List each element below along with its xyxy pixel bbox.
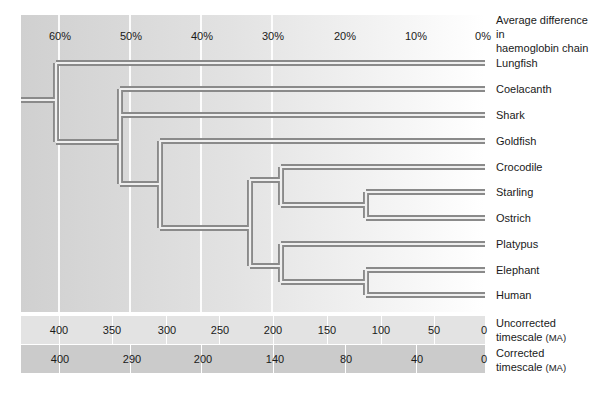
corrected-label-line2: timescale (MA) (496, 360, 566, 375)
leaf-crocodile: Crocodile (496, 161, 542, 173)
uncorrected-tick-250: 250 (211, 324, 229, 336)
corrected-tick-400: 400 (51, 353, 69, 365)
uncorrected-label-text: timescale (496, 331, 542, 343)
leaf-elephant: Elephant (496, 264, 539, 276)
leaf-human: Human (496, 289, 531, 301)
corrected-tick-290: 290 (123, 353, 141, 365)
uncorrected-tick-400: 400 (50, 324, 68, 336)
leaf-coelacanth: Coelacanth (496, 83, 552, 95)
leaf-starling: Starling (496, 186, 533, 198)
corrected-tick-40: 40 (411, 353, 423, 365)
uncorrected-tick-150: 150 (318, 324, 336, 336)
leaf-shark: Shark (496, 109, 525, 121)
uncorrected-tick-0: 0 (481, 324, 487, 336)
corrected-tick-80: 80 (340, 353, 352, 365)
leaf-ostrich: Ostrich (496, 212, 531, 224)
corrected-timescale-label: Corrected timescale (MA) (496, 346, 566, 375)
corrected-tick-200: 200 (194, 353, 212, 365)
leaf-platypus: Platypus (496, 238, 538, 250)
uncorrected-tick-100: 100 (372, 324, 390, 336)
corrected-unit: (MA) (546, 362, 567, 373)
corrected-label-text: timescale (496, 361, 542, 373)
uncorrected-timescale-label: Uncorrected timescale (MA) (496, 316, 566, 345)
corrected-tick-0: 0 (481, 353, 487, 365)
uncorrected-tick-300: 300 (158, 324, 176, 336)
leaf-lungfish: Lungfish (496, 57, 538, 69)
corrected-tick-140: 140 (266, 353, 284, 365)
uncorrected-label-line2: timescale (MA) (496, 330, 566, 345)
leaf-goldfish: Goldfish (496, 135, 536, 147)
corrected-label-line1: Corrected (496, 346, 566, 360)
uncorrected-tick-350: 350 (103, 324, 121, 336)
uncorrected-unit: (MA) (546, 332, 567, 343)
uncorrected-tick-50: 50 (428, 324, 440, 336)
uncorrected-label-line1: Uncorrected (496, 316, 566, 330)
uncorrected-timescale-bar (21, 316, 485, 344)
uncorrected-tick-200: 200 (264, 324, 282, 336)
